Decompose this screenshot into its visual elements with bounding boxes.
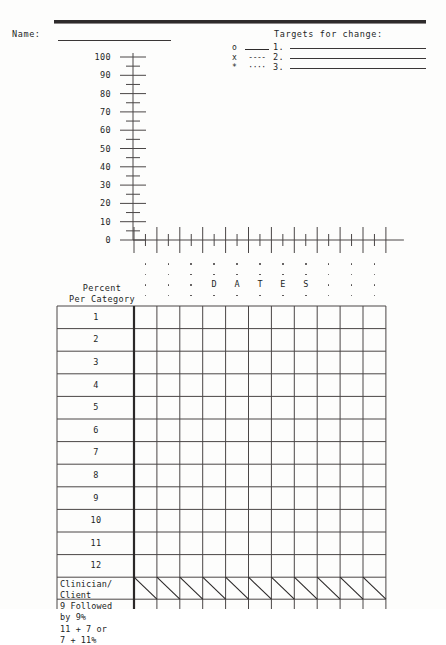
summary-label-line1: Clinician/ <box>60 579 136 590</box>
y-tick-label: 10 <box>85 217 111 227</box>
summary-label-line2: Client <box>60 590 136 601</box>
table-row-label: 5 <box>58 402 134 412</box>
table-row-label: 11 <box>58 538 134 548</box>
date-grid-dot <box>168 263 170 265</box>
y-tick-label: 30 <box>85 180 111 190</box>
table-row-label: 6 <box>58 425 134 435</box>
table-row-label: 2 <box>58 334 134 344</box>
x-axis-label-letter: E <box>278 279 288 289</box>
y-tick-label: 50 <box>85 144 111 154</box>
summary-label-line2: 7 + 11% <box>60 635 136 645</box>
date-grid-dot <box>305 263 307 265</box>
x-axis-label-letter: A <box>232 279 242 289</box>
y-tick-label: 0 <box>85 235 111 245</box>
y-tick-label: 100 <box>85 52 111 62</box>
date-grid-dot <box>259 263 261 265</box>
y-tick-label: 40 <box>85 162 111 172</box>
date-grid-dot <box>190 263 192 265</box>
table-row-label: 8 <box>58 470 134 480</box>
table-row-label: 9 <box>58 493 134 503</box>
date-grid-dot <box>282 263 284 265</box>
date-grid-dot <box>145 284 147 286</box>
date-grid-dot <box>236 263 238 265</box>
date-grid-dot <box>145 263 147 265</box>
summary-label-line1: 11 + 7 or <box>60 624 136 635</box>
y-tick-label: 90 <box>85 70 111 80</box>
x-axis-label-letter: T <box>255 279 265 289</box>
table-summary-label: Clinician/Client <box>60 579 136 600</box>
date-grid-dot <box>213 263 215 265</box>
date-grid-dot <box>168 284 170 286</box>
y-tick-label: 20 <box>85 198 111 208</box>
y-tick-label: 60 <box>85 125 111 135</box>
table-row-label: 12 <box>58 560 134 570</box>
date-grid-dot <box>374 263 376 265</box>
summary-label-line1: 9 Followed <box>60 601 136 612</box>
table-summary-label: 9 Followedby 9% <box>60 601 136 622</box>
table-row-label: 1 <box>58 312 134 322</box>
table-row-label: 7 <box>58 447 134 457</box>
x-axis-label-letter: D <box>209 279 219 289</box>
table-row-label: 3 <box>58 357 134 367</box>
table-summary-label: 11 + 7 or7 + 11% <box>60 624 136 645</box>
date-grid-dot <box>190 284 192 286</box>
date-grid-dot <box>374 284 376 286</box>
table-row-label: 10 <box>58 515 134 525</box>
x-axis-label-letter: S <box>301 279 311 289</box>
y-tick-label: 80 <box>85 89 111 99</box>
table-row-label: 4 <box>58 380 134 390</box>
summary-label-line2: by 9% <box>60 612 136 623</box>
y-tick-label: 70 <box>85 107 111 117</box>
